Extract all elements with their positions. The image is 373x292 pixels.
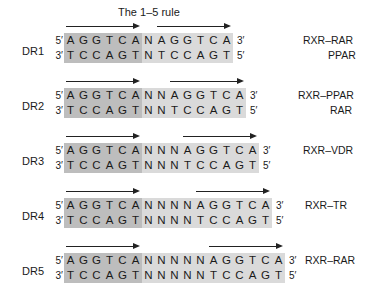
- nucleotide: A: [207, 253, 220, 268]
- nucleotide: T: [272, 268, 285, 283]
- nucleotide: C: [220, 88, 233, 103]
- nucleotide: T: [103, 33, 116, 48]
- nucleotide: G: [77, 253, 90, 268]
- nucleotide: C: [220, 268, 233, 283]
- nucleotide: A: [129, 88, 142, 103]
- nucleotide: C: [181, 103, 194, 118]
- nucleotide: N: [168, 253, 181, 268]
- nucleotide: A: [220, 33, 233, 48]
- nucleotide: T: [103, 253, 116, 268]
- nucleotide: C: [168, 48, 181, 63]
- nucleotide-sequence: TCCAGTNNTCCAGT: [64, 103, 246, 118]
- nucleotide: G: [77, 33, 90, 48]
- bottom-strand: 3′TCCAGTNTCCAGT5′: [48, 48, 244, 63]
- nucleotide: G: [233, 253, 246, 268]
- nucleotide: G: [194, 143, 207, 158]
- nucleotide: A: [272, 253, 285, 268]
- nucleotide: C: [194, 103, 207, 118]
- nucleotide: C: [77, 158, 90, 173]
- top-strand: 5′AGGTCANNNNNAGGTCA3′: [48, 253, 296, 268]
- receptor-label: RXR–PPAR: [298, 89, 354, 101]
- nucleotide: G: [233, 158, 246, 173]
- dr-label: DR2: [22, 100, 44, 112]
- nucleotide: A: [103, 103, 116, 118]
- nucleotide: G: [207, 48, 220, 63]
- half-site-arrow-icon: [66, 243, 140, 251]
- dr-label: DR4: [22, 210, 44, 222]
- nucleotide: T: [233, 198, 246, 213]
- nucleotide: T: [233, 103, 246, 118]
- nucleotide: A: [103, 213, 116, 228]
- strand-end-label: 3′: [48, 105, 64, 116]
- half-site-arrow-icon: [66, 133, 140, 141]
- strand-end-label: 5′: [272, 215, 283, 226]
- nucleotide: A: [103, 158, 116, 173]
- top-strand: 5′AGGTCANNNNAGGTCA3′: [48, 198, 283, 213]
- nucleotide: N: [155, 88, 168, 103]
- bottom-strand: 3′TCCAGTNNNNTCCAGT5′: [48, 213, 283, 228]
- nucleotide: A: [194, 198, 207, 213]
- nucleotide: G: [77, 143, 90, 158]
- nucleotide: A: [64, 88, 77, 103]
- half-site-arrow-icon: [170, 78, 244, 86]
- nucleotide: G: [116, 268, 129, 283]
- bottom-strand: 3′TCCAGTNNNTCCAGT5′: [48, 158, 270, 173]
- nucleotide: T: [168, 103, 181, 118]
- nucleotide: T: [64, 103, 77, 118]
- receptor-label: PPAR: [328, 49, 356, 61]
- top-strand: 5′AGGTCANAGGTCA3′: [48, 33, 244, 48]
- nucleotide: C: [207, 213, 220, 228]
- nucleotide: T: [103, 143, 116, 158]
- nucleotide: G: [181, 88, 194, 103]
- receptor-label: RXR–RAR: [303, 34, 353, 46]
- nucleotide: T: [194, 33, 207, 48]
- nucleotide: G: [246, 213, 259, 228]
- nucleotide: A: [233, 213, 246, 228]
- nucleotide: G: [116, 213, 129, 228]
- nucleotide-sequence: AGGTCANNNNAGGTCA: [64, 198, 272, 213]
- nucleotide: C: [233, 268, 246, 283]
- nucleotide: C: [77, 103, 90, 118]
- nucleotide: A: [64, 143, 77, 158]
- top-strand: 5′AGGTCANNNAGGTCA3′: [48, 143, 270, 158]
- direct-repeat-dr2: DR25′AGGTCANNAGGTCA3′3′TCCAGTNNTCCAGT5′R…: [0, 78, 373, 122]
- nucleotide: G: [168, 33, 181, 48]
- nucleotide: G: [181, 33, 194, 48]
- nucleotide: N: [155, 268, 168, 283]
- receptor-label: RXR–TR: [305, 199, 347, 211]
- nucleotide: T: [64, 48, 77, 63]
- nucleotide: N: [142, 213, 155, 228]
- nucleotide-sequence: AGGTCANAGGTCA: [64, 33, 233, 48]
- nucleotide: T: [246, 253, 259, 268]
- nucleotide: T: [64, 158, 77, 173]
- nucleotide: N: [155, 143, 168, 158]
- nucleotide: T: [246, 158, 259, 173]
- nucleotide: G: [207, 143, 220, 158]
- nucleotide: N: [168, 143, 181, 158]
- receptor-label: RXR–VDR: [303, 144, 353, 156]
- nucleotide: C: [233, 143, 246, 158]
- nucleotide: A: [103, 48, 116, 63]
- half-site-arrow-icon: [66, 78, 140, 86]
- nucleotide: G: [90, 88, 103, 103]
- nucleotide: A: [207, 103, 220, 118]
- nucleotide: N: [181, 213, 194, 228]
- nucleotide: A: [168, 88, 181, 103]
- half-site-arrow-icon: [157, 23, 231, 31]
- half-site-arrow-icon: [196, 188, 270, 196]
- strand-end-label: 5′: [48, 145, 64, 156]
- strand-end-label: 5′: [285, 270, 296, 281]
- strand-end-label: 5′: [48, 255, 64, 266]
- nucleotide: A: [194, 48, 207, 63]
- dr-label: DR1: [22, 45, 44, 57]
- nucleotide: C: [90, 48, 103, 63]
- strand-end-label: 3′: [272, 200, 283, 211]
- nucleotide: C: [90, 103, 103, 118]
- nucleotide: N: [142, 143, 155, 158]
- dr-label: DR5: [22, 265, 44, 277]
- nucleotide: N: [181, 253, 194, 268]
- nucleotide: G: [220, 253, 233, 268]
- nucleotide: C: [116, 33, 129, 48]
- nucleotide: C: [246, 198, 259, 213]
- nucleotide: A: [259, 198, 272, 213]
